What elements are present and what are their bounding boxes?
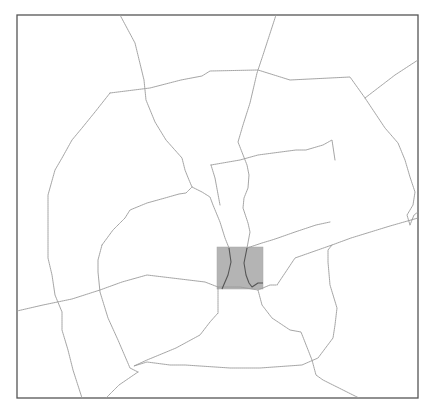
road-layer [17,15,418,398]
road-north-east-radial [238,15,276,248]
road-inner-ring-west [98,245,138,372]
road-inner-ring-link [211,165,220,205]
road-south-radial [258,290,359,398]
road-inner-ring-west-upper [102,187,192,245]
road-east-spoke [247,222,330,248]
road-north-west-radial [120,15,229,248]
map-view[interactable] [0,0,421,411]
road-network-map[interactable] [0,0,421,411]
highlighted-area[interactable] [217,247,263,289]
map-frame [17,15,418,398]
road-inner-ring-north [211,140,335,165]
road-northeast-diagonal [365,60,418,98]
road-south-west-radial [106,372,138,398]
road-east-arterial [258,218,418,290]
road-outer-ring-west [48,93,110,398]
road-outer-ring-north [110,70,415,225]
